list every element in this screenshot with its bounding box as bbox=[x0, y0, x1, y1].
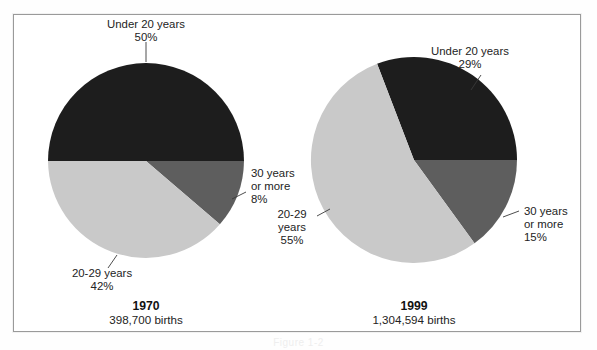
chart-subtitle-1999: 1,304,594 births bbox=[372, 313, 455, 326]
leader-line-1999-30-plus bbox=[503, 211, 519, 217]
pie-1970: Under 20 years 50% 30 years or more 8% 2… bbox=[48, 18, 295, 326]
label-1999-30-plus-line1: 30 years bbox=[524, 205, 568, 217]
label-1999-under-20-line1: Under 20 years bbox=[431, 45, 509, 57]
label-1999-30-plus-line3: 15% bbox=[524, 231, 547, 243]
slice-1970-under-20-years[interactable] bbox=[48, 63, 244, 161]
label-1999-30-plus-line2: or more bbox=[524, 218, 563, 230]
label-1970-30-plus-line2: or more bbox=[251, 180, 290, 192]
label-1999-20-29-line3: 55% bbox=[281, 234, 304, 246]
label-1999-under-20-line2: 29% bbox=[459, 58, 482, 70]
label-1999-20-29-line2: years bbox=[278, 221, 306, 233]
label-1970-20-29-line2: 42% bbox=[91, 280, 114, 292]
figure-caption: Figure 1-2 bbox=[0, 337, 597, 350]
pie-chart-canvas: Under 20 years 50% 30 years or more 8% 2… bbox=[0, 0, 597, 350]
figure-root: Under 20 years 50% 30 years or more 8% 2… bbox=[0, 0, 597, 350]
label-1970-under-20-line2: 50% bbox=[135, 31, 158, 43]
chart-title-1999: 1999 bbox=[400, 299, 427, 313]
label-1970-under-20-line1: Under 20 years bbox=[107, 18, 185, 30]
label-1970-30-plus-line3: 8% bbox=[251, 193, 267, 205]
label-1999-20-29-line1: 20-29 bbox=[277, 208, 306, 220]
label-1970-30-plus-line1: 30 years bbox=[251, 167, 295, 179]
pie-1999: Under 20 years 29% 30 years or more 15% … bbox=[277, 45, 568, 326]
chart-subtitle-1970: 398,700 births bbox=[109, 313, 183, 326]
chart-title-1970: 1970 bbox=[132, 299, 159, 313]
label-1970-20-29-line1: 20-29 years bbox=[72, 267, 132, 279]
